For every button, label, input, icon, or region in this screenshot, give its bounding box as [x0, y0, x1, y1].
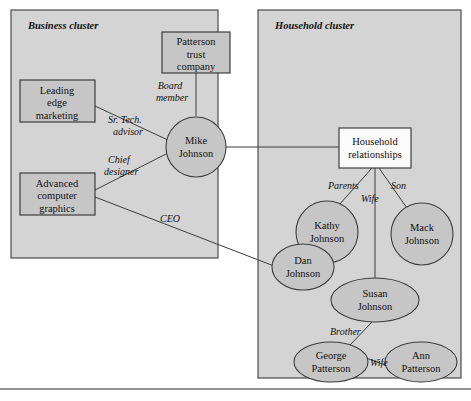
node-dan-johnson-line1: Dan	[294, 255, 312, 266]
edge-label-ceo: CEO	[160, 213, 180, 224]
node-mike-johnson[interactable]: Mike Johnson	[166, 117, 226, 177]
node-dan-johnson[interactable]: Dan Johnson	[272, 244, 334, 290]
edge-label-son: Son	[391, 180, 406, 191]
edge-label-chief-designer-line1: Chief	[108, 154, 131, 165]
node-susan-johnson-line1: Susan	[362, 288, 388, 299]
edge-label-chief-designer-line2: designer	[104, 166, 139, 177]
node-household-relationships-line1: Household	[352, 136, 398, 147]
node-leading-edge-marketing-line1: Leading	[40, 85, 75, 96]
edge-label-brother: Brother	[330, 326, 361, 337]
cluster-business-label: Business cluster	[27, 20, 99, 31]
node-leading-edge-marketing-line3: marketing	[36, 110, 79, 121]
node-patterson-trust-company-line3: company	[177, 61, 216, 72]
edge-label-parents: Parents	[327, 180, 359, 191]
node-mack-johnson-line1: Mack	[410, 222, 435, 233]
node-mack-johnson-line2: Johnson	[405, 235, 440, 246]
node-patterson-trust-company-line1: Patterson	[176, 36, 216, 47]
edge-label-sr-tech-advisor-line2: advisor	[113, 126, 143, 137]
cluster-household-label: Household cluster	[274, 20, 355, 31]
node-kathy-johnson-line2: Johnson	[310, 233, 345, 244]
edge-label-board-member-line2: member	[156, 92, 188, 103]
node-advanced-computer-graphics-line3: graphics	[39, 203, 75, 214]
node-susan-johnson-line2: Johnson	[358, 301, 393, 312]
node-george-patterson[interactable]: George Patterson	[294, 342, 368, 382]
edge-label-sr-tech-advisor-line1: Sr. Tech.	[108, 114, 142, 125]
node-george-patterson-line1: George	[316, 350, 347, 361]
node-dan-johnson-line2: Johnson	[286, 268, 321, 279]
node-george-patterson-line2: Patterson	[311, 363, 351, 374]
node-advanced-computer-graphics[interactable]: Advanced computer graphics	[20, 173, 95, 215]
node-leading-edge-marketing-line2: edge	[47, 97, 67, 108]
node-ann-patterson[interactable]: Ann Patterson	[385, 342, 457, 382]
node-patterson-trust-company-line2: trust	[187, 49, 206, 60]
edge-label-wife: Wife	[361, 193, 379, 204]
node-patterson-trust-company[interactable]: Patterson trust company	[162, 32, 230, 73]
node-leading-edge-marketing[interactable]: Leading edge marketing	[20, 80, 95, 122]
node-mike-johnson-line2: Johnson	[179, 148, 214, 159]
node-mack-johnson[interactable]: Mack Johnson	[391, 203, 453, 265]
node-susan-johnson[interactable]: Susan Johnson	[331, 278, 419, 322]
node-ann-patterson-line1: Ann	[412, 350, 431, 361]
node-household-relationships[interactable]: Household relationships	[339, 128, 411, 168]
edge-label-board-member-line1: Board	[158, 80, 184, 91]
node-kathy-johnson-line1: Kathy	[314, 220, 340, 231]
node-advanced-computer-graphics-line1: Advanced	[36, 178, 79, 189]
diagram-canvas: Business cluster Household cluster Patte…	[0, 0, 471, 401]
edge-label-wife-patterson: Wife	[370, 357, 388, 368]
node-mike-johnson-line1: Mike	[185, 135, 208, 146]
node-advanced-computer-graphics-line2: computer	[37, 190, 77, 201]
cluster-household[interactable]	[258, 10, 461, 378]
node-household-relationships-line2: relationships	[348, 149, 402, 160]
node-ann-patterson-line2: Patterson	[401, 363, 441, 374]
